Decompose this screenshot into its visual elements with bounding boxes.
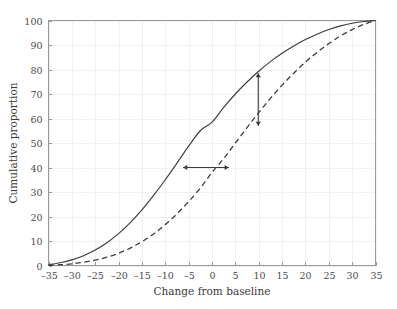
gridlines — [49, 21, 377, 267]
y-tick-label: 90 — [30, 40, 42, 51]
x-tick-label: –25 — [87, 270, 104, 281]
x-tick-label: 20 — [299, 270, 311, 281]
x-tick-label: 35 — [370, 270, 382, 281]
x-tick-label: –35 — [41, 270, 58, 281]
x-tick-label: 10 — [253, 270, 265, 281]
chart-canvas: –35–30–25–20–15–10–505101520253035 01020… — [0, 0, 397, 309]
annotation-arrows — [183, 73, 261, 170]
x-tick-label: 5 — [232, 270, 238, 281]
y-tick-label: 0 — [36, 261, 42, 272]
x-tickmarks — [50, 262, 377, 266]
y-tick-label: 50 — [30, 138, 42, 149]
vertical-shift-arrow — [256, 73, 261, 126]
x-tick-label: 25 — [323, 270, 335, 281]
y-tick-label: 40 — [30, 163, 42, 174]
arrow-head — [183, 165, 187, 170]
x-tick-labels: –35–30–25–20–15–10–505101520253035 — [41, 270, 382, 281]
y-axis-title: Cumulative proportion — [7, 82, 19, 203]
x-tick-label: –5 — [184, 270, 195, 281]
cumulative-distribution-figure: –35–30–25–20–15–10–505101520253035 01020… — [0, 0, 397, 309]
y-tick-labels: 0102030405060708090100 — [24, 16, 42, 272]
y-tick-label: 30 — [30, 187, 42, 198]
x-tick-label: –10 — [157, 270, 174, 281]
x-tick-label: 15 — [276, 270, 288, 281]
arrow-head — [225, 165, 229, 170]
arrow-head — [256, 122, 261, 126]
x-tick-label: 30 — [346, 270, 358, 281]
y-tick-label: 80 — [30, 65, 42, 76]
y-tick-label: 20 — [30, 212, 42, 223]
x-axis-title: Change from baseline — [154, 285, 271, 297]
y-tick-label: 60 — [30, 114, 42, 125]
y-tick-label: 100 — [24, 16, 42, 27]
y-tick-label: 70 — [30, 89, 42, 100]
x-tick-label: 0 — [209, 270, 215, 281]
x-tick-label: –15 — [134, 270, 151, 281]
x-tick-label: –20 — [111, 270, 128, 281]
y-tick-label: 10 — [30, 236, 42, 247]
x-tick-label: –30 — [64, 270, 81, 281]
